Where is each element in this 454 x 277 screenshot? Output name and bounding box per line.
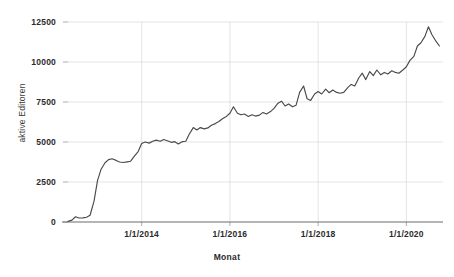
- y-tick-label: 0: [0, 217, 56, 227]
- chart-container: aktive Editoren 02500500075001000012500 …: [0, 0, 454, 277]
- y-tick-label: 5000: [0, 137, 56, 147]
- x-axis-title: Monat: [0, 252, 454, 262]
- x-tick-label: 1/1/2020: [371, 229, 441, 239]
- data-line-series-0: [68, 27, 439, 222]
- x-tick-label: 1/1/2014: [107, 229, 177, 239]
- y-tick-label: 2500: [0, 177, 56, 187]
- tickmarks-group: [63, 22, 406, 226]
- y-tick-label: 12500: [0, 17, 56, 27]
- x-tick-label: 1/1/2018: [283, 229, 353, 239]
- x-tick-label: 1/1/2016: [195, 229, 265, 239]
- y-tick-label: 10000: [0, 57, 56, 67]
- x-axis-title-text: Monat: [214, 252, 241, 262]
- y-tick-label: 7500: [0, 97, 56, 107]
- gridlines-group: [68, 22, 443, 222]
